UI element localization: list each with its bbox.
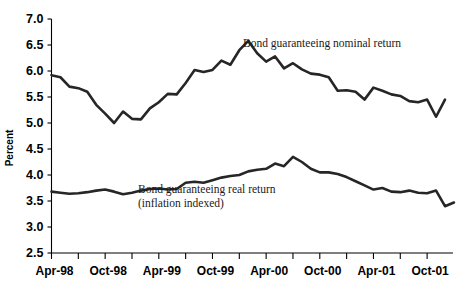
y-axis-title: Percent: [4, 129, 15, 166]
y-tick-label: 5.0: [26, 116, 43, 130]
series-line-real-return: [52, 157, 454, 206]
annotation-real-return-line1: Bond guaranteeing real return: [138, 183, 276, 196]
y-tick-label: 7.0: [26, 12, 43, 26]
annotation-real-return-line2: (inflation indexed): [138, 197, 224, 210]
y-tick-label: 5.5: [26, 90, 43, 104]
y-tick-label: 6.0: [26, 64, 43, 78]
x-tick-marks: [52, 253, 428, 259]
y-axis-group: 2.53.03.54.04.55.05.56.06.57.0 Percent: [4, 12, 52, 260]
annotation-nominal-return: Bond guaranteeing nominal return: [243, 37, 401, 50]
x-tick-label: Apr-99: [143, 264, 181, 278]
series-line-nominal-return: [52, 41, 446, 123]
x-tick-label: Oct-98: [89, 264, 127, 278]
y-tick-label: 3.0: [26, 220, 43, 234]
x-tick-label: Apr-98: [35, 264, 73, 278]
y-tick-label: 3.5: [26, 194, 43, 208]
y-tick-label: 6.5: [26, 38, 43, 52]
y-tick-labels: 2.53.03.54.04.55.05.56.06.57.0: [26, 12, 43, 260]
x-tick-label: Apr-00: [250, 264, 288, 278]
y-tick-marks: [48, 19, 52, 253]
chart-canvas: 2.53.03.54.04.55.05.56.06.57.0 Percent A…: [0, 0, 464, 291]
series-group: [52, 41, 454, 206]
percent-line-chart: 2.53.03.54.04.55.05.56.06.57.0 Percent A…: [0, 0, 464, 291]
x-tick-label: Oct-01: [411, 264, 449, 278]
y-tick-label: 4.0: [26, 168, 43, 182]
y-tick-label: 4.5: [26, 142, 43, 156]
x-axis-group: Apr-98Oct-98Apr-99Oct-99Apr-00Oct-00Apr-…: [35, 253, 453, 278]
y-tick-label: 2.5: [26, 246, 43, 260]
x-tick-label: Apr-01: [357, 264, 395, 278]
x-tick-labels: Apr-98Oct-98Apr-99Oct-99Apr-00Oct-00Apr-…: [35, 264, 449, 278]
x-tick-label: Oct-99: [197, 264, 235, 278]
x-tick-label: Oct-00: [304, 264, 342, 278]
